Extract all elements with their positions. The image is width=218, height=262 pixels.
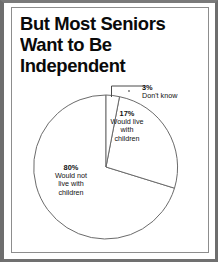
infographic-figure: But Most Seniors Want to Be Independent …: [0, 0, 218, 262]
pie-label-would-not-live-with-children: 80% Would not live with children: [42, 163, 100, 197]
title-line-3: Independent: [20, 55, 191, 76]
leader-dot-dont-know: [128, 90, 130, 92]
pie-label-would-live-with-children: 17% Would live with children: [98, 109, 156, 143]
pie-chart: 3% Don't know 17% Would live with childr…: [12, 80, 208, 252]
title-line-2: Want to Be: [20, 34, 191, 55]
pie-label-would-not-live-line-3: children: [42, 189, 100, 197]
leader-line-dont-know: [112, 86, 146, 97]
pie-label-would-live-line-3: children: [98, 135, 156, 143]
pie-label-dont-know-text: Don't know: [142, 92, 202, 100]
page-title: But Most Seniors Want to Be Independent: [20, 13, 196, 76]
title-line-1: But Most Seniors: [20, 13, 191, 34]
pie-label-dont-know: 3% Don't know: [142, 83, 202, 100]
